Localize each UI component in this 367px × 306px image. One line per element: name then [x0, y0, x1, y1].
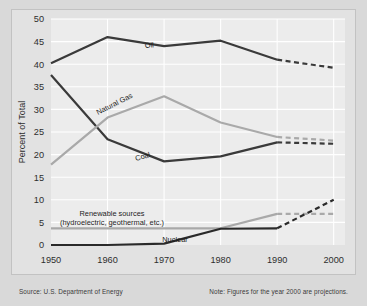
projection-note: Note: Figures for the year 2000 are proj…	[209, 288, 348, 295]
series-label-renewable: Renewable sources	[80, 209, 145, 218]
y-tick-35: 35	[34, 82, 44, 92]
series-label-oil: Oil	[145, 40, 155, 50]
chart-footer: Source: U.S. Department of Energy Note: …	[11, 281, 356, 301]
series-label-renewable-sub: (hydroelectric, geothermal, etc.)	[60, 218, 164, 227]
x-axis-tick-labels: 195019601970198019902000	[41, 255, 344, 265]
line-chart-svg: 05101520253035404550 1950196019701980199…	[12, 10, 355, 274]
source-note: Source: U.S. Department of Energy	[19, 288, 123, 295]
y-tick-10: 10	[34, 195, 44, 205]
x-tick-1970: 1970	[154, 255, 174, 265]
chart-plot-frame: 05101520253035404550 1950196019701980199…	[11, 9, 356, 275]
y-tick-20: 20	[34, 150, 44, 160]
x-tick-1950: 1950	[41, 255, 61, 265]
y-tick-5: 5	[39, 218, 44, 228]
y-tick-45: 45	[34, 37, 44, 47]
series-label-nuclear: Nuclear	[162, 235, 188, 244]
y-axis-tick-labels: 05101520253035404550	[34, 14, 44, 250]
x-tick-1990: 1990	[267, 255, 287, 265]
x-tick-2000: 2000	[323, 255, 343, 265]
y-tick-25: 25	[34, 127, 44, 137]
y-tick-50: 50	[34, 14, 44, 24]
y-tick-15: 15	[34, 173, 44, 183]
y-tick-0: 0	[39, 240, 44, 250]
x-tick-1960: 1960	[97, 255, 117, 265]
y-axis-title: Percent of Total	[17, 101, 27, 163]
y-tick-30: 30	[34, 105, 44, 115]
energy-share-chart-figure: 05101520253035404550 1950196019701980199…	[0, 0, 367, 306]
y-tick-40: 40	[34, 60, 44, 70]
x-tick-1980: 1980	[210, 255, 230, 265]
